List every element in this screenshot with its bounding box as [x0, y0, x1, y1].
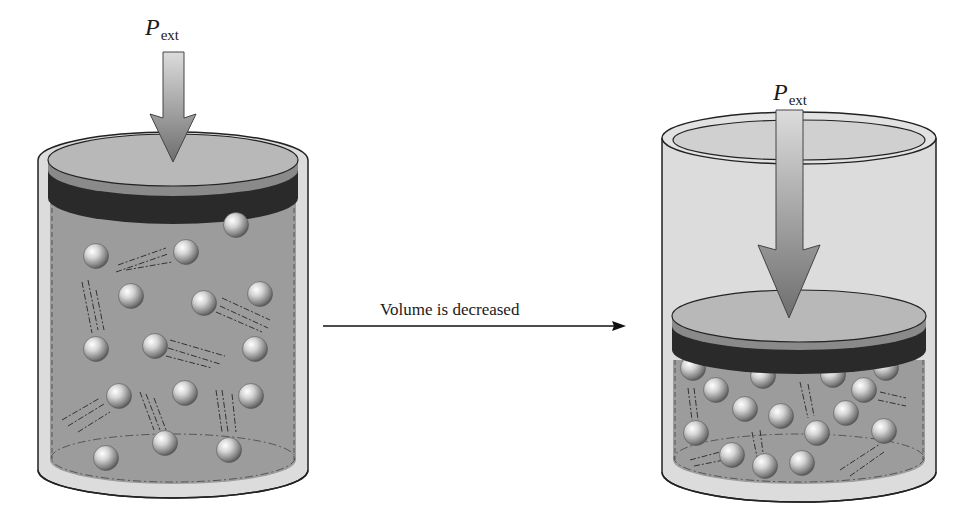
- left-cylinder: [38, 132, 308, 498]
- transition-arrow: [323, 321, 626, 331]
- pressure-symbol: P: [773, 79, 788, 105]
- pressure-symbol: P: [145, 14, 160, 40]
- transition-caption: Volume is decreased: [380, 300, 519, 320]
- left-external-pressure-label: Pext: [145, 14, 179, 44]
- pressure-subscript: ext: [161, 27, 179, 43]
- right-piston: [672, 290, 926, 374]
- gas-compression-diagram: [0, 0, 956, 525]
- right-external-pressure-label: Pext: [773, 79, 807, 109]
- pressure-subscript: ext: [789, 92, 807, 108]
